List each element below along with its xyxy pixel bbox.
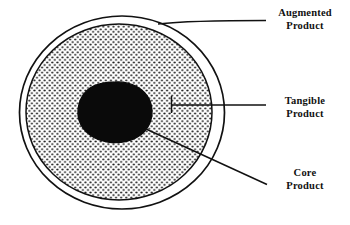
leader-line-augmented <box>158 21 266 25</box>
label-core-product: Core Product <box>262 167 348 192</box>
label-augmented-line2: Product <box>262 20 348 33</box>
label-augmented-line1: Augmented <box>262 7 348 20</box>
label-augmented-product: Augmented Product <box>262 7 348 32</box>
diagram-canvas: Augmented Product Tangible Product Core … <box>0 0 350 225</box>
label-tangible-product: Tangible Product <box>262 95 348 120</box>
label-core-line1: Core <box>262 167 348 180</box>
label-tangible-line1: Tangible <box>262 95 348 108</box>
core-product-blob <box>78 82 152 143</box>
label-tangible-line2: Product <box>262 108 348 121</box>
label-core-line2: Product <box>262 180 348 193</box>
